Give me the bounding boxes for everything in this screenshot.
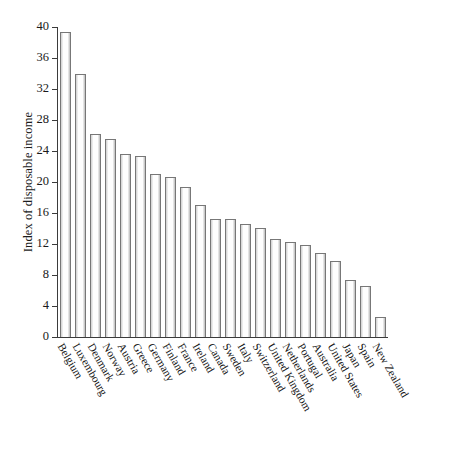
y-axis-tick	[52, 182, 58, 183]
y-axis-tick-label: 4	[7, 298, 49, 313]
bar	[285, 242, 296, 337]
y-axis-tick-label-wrap: 24	[0, 151, 49, 152]
y-axis-tick-label-wrap: 8	[0, 275, 49, 276]
y-axis-tick-label: 40	[7, 19, 49, 34]
y-axis-tick	[52, 213, 58, 214]
bar	[180, 187, 191, 337]
y-axis-tick-label-wrap: 12	[0, 244, 49, 245]
bar	[240, 224, 251, 337]
y-axis-tick-label-wrap: 0	[0, 337, 49, 338]
bar	[75, 74, 86, 338]
y-axis-tick-label-wrap: 4	[0, 306, 49, 307]
y-axis-tick	[52, 337, 58, 338]
bar	[255, 228, 266, 337]
x-axis-line	[57, 337, 388, 338]
y-axis-tick	[52, 120, 58, 121]
bar	[195, 205, 206, 337]
bar	[375, 317, 386, 337]
y-axis-tick	[52, 244, 58, 245]
bar	[90, 134, 101, 337]
bar	[300, 245, 311, 337]
bar	[135, 156, 146, 337]
y-axis-tick-label-wrap: 28	[0, 120, 49, 121]
y-axis-tick-label: 28	[7, 112, 49, 127]
bar	[345, 280, 356, 337]
y-axis-tick	[52, 89, 58, 90]
y-axis-tick-label-wrap: 40	[0, 27, 49, 28]
y-axis-tick	[52, 58, 58, 59]
y-axis-tick	[52, 151, 58, 152]
bar-chart-figure: Index of disposable income 0481216202428…	[0, 0, 455, 452]
y-axis-tick-label: 12	[7, 236, 49, 251]
y-axis-tick-label: 20	[7, 174, 49, 189]
y-axis-tick-label-wrap: 36	[0, 58, 49, 59]
bar	[60, 32, 71, 337]
bar	[120, 154, 131, 337]
plot-area: 0481216202428323640	[58, 27, 388, 337]
y-axis-tick-label-wrap: 32	[0, 89, 49, 90]
bar	[330, 261, 341, 337]
y-axis-tick	[52, 306, 58, 307]
bar	[315, 253, 326, 337]
y-axis-tick-label: 32	[7, 81, 49, 96]
y-axis-tick-label-wrap: 20	[0, 182, 49, 183]
y-axis-tick-label: 8	[7, 267, 49, 282]
x-axis-labels: BelgiumLuxembourgDenmarkNorwayAustriaGre…	[58, 341, 398, 451]
bar	[210, 219, 221, 337]
y-axis-tick-label: 16	[7, 205, 49, 220]
bar	[150, 174, 161, 337]
y-axis-tick-label: 24	[7, 143, 49, 158]
bar	[360, 286, 371, 337]
x-axis-tick-label: New Zealand	[371, 341, 412, 399]
y-axis-tick	[52, 27, 58, 28]
bar	[165, 177, 176, 337]
y-axis-tick-label: 36	[7, 50, 49, 65]
bar	[225, 219, 236, 337]
y-axis-tick-label-wrap: 16	[0, 213, 49, 214]
y-axis-tick-label: 0	[7, 329, 49, 344]
bar	[270, 239, 281, 337]
y-axis-tick	[52, 275, 58, 276]
bar	[105, 139, 116, 337]
